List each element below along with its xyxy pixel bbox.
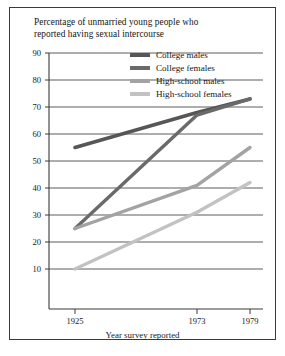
- chart-legend: College malesCollege femalesHigh-school …: [130, 48, 260, 101]
- legend-swatch-icon: [130, 66, 150, 70]
- x-tick-label-1925: 1925: [55, 317, 95, 326]
- x-axis-title: Year survey reported: [0, 330, 285, 340]
- y-tick-label-60: 60: [15, 130, 41, 139]
- legend-item-college-females: College females: [130, 61, 260, 74]
- y-tick-label-40: 40: [15, 184, 41, 193]
- legend-swatch-icon: [130, 53, 150, 57]
- legend-swatch-icon: [130, 79, 150, 83]
- chart-figure: Percentage of unmarried young people who…: [0, 0, 285, 356]
- y-tick-label-90: 90: [15, 49, 41, 58]
- legend-item-high-school-females: High-school females: [130, 88, 260, 101]
- y-tick-label-50: 50: [15, 157, 41, 166]
- series-line-high-school-females: [75, 183, 250, 269]
- y-tick-label-30: 30: [15, 211, 41, 220]
- y-tick-label-10: 10: [15, 265, 41, 274]
- legend-item-high-school-males: High-school males: [130, 74, 260, 87]
- y-tick-label-20: 20: [15, 238, 41, 247]
- series-line-college-females: [75, 99, 250, 229]
- x-tick-label-1973: 1973: [177, 317, 217, 326]
- y-tick-label-70: 70: [15, 103, 41, 112]
- legend-swatch-icon: [130, 92, 150, 96]
- legend-label: College females: [156, 63, 215, 73]
- x-tick-label-1979: 1979: [230, 317, 270, 326]
- legend-item-college-males: College males: [130, 48, 260, 61]
- y-tick-label-80: 80: [15, 76, 41, 85]
- data-series-group: [75, 99, 250, 269]
- legend-label: High-school females: [156, 89, 232, 99]
- legend-label: High-school males: [156, 76, 224, 86]
- legend-label: College males: [156, 50, 208, 60]
